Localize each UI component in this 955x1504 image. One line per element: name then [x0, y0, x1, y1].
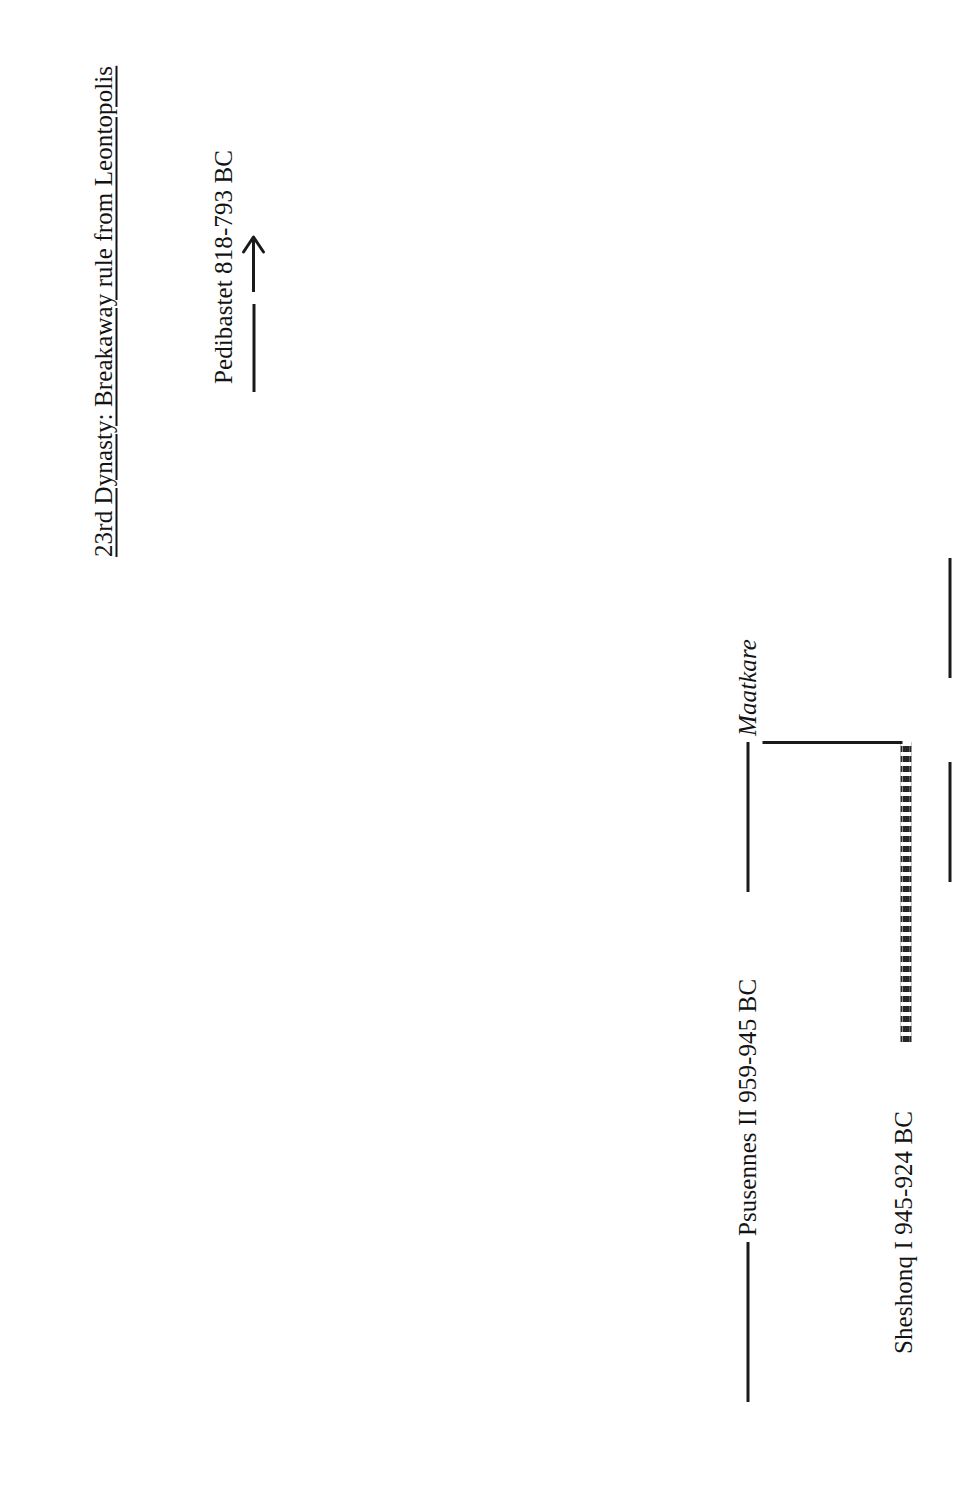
- branch-line-harsiese: [948, 762, 951, 882]
- heading-23rd-dynasty: 23rd Dynasty: Breakaway rule from Leonto…: [88, 66, 118, 557]
- connector-psusennes-left: [746, 1242, 749, 1402]
- genealogy-chart: 22nd Dynasty: Rule from Tanis 23rd Dynas…: [0, 0, 955, 1504]
- queen-maatkare: Maatkare: [732, 639, 762, 736]
- rotated-page-wrapper: 22nd Dynasty: Rule from Tanis 23rd Dynas…: [0, 0, 955, 1504]
- descent-line-maatkare: [762, 741, 902, 744]
- marriage-connector-sheshonq-i-maatkare: [900, 742, 911, 1042]
- continuation-arrow-23rd-dynasty: [238, 222, 268, 292]
- connector-psusennes-right: [746, 742, 749, 892]
- ruler-psusennes-ii: Psusennes II 959-945 BC: [732, 979, 762, 1236]
- ruler-sheshonq-i: Sheshonq I 945-924 BC: [888, 1111, 918, 1354]
- spine-segment-pedibastet: [252, 304, 255, 392]
- ruler-pedibastet: Pedibastet 818-793 BC: [208, 150, 238, 384]
- branch-line-sheshonq-ii: [948, 558, 951, 678]
